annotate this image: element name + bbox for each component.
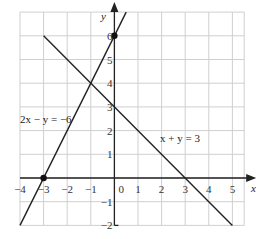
x-tick-label: 3 — [182, 183, 188, 195]
line1-label: 2x − y = −6 — [20, 113, 72, 125]
y-tick-label: 5 — [107, 54, 113, 66]
x-tick-label: 4 — [206, 183, 212, 195]
y-tick-label: 6 — [107, 30, 113, 42]
y-axis-label: y — [100, 10, 106, 22]
y-tick-label: 2 — [107, 125, 113, 137]
x-tick-label: −1 — [85, 183, 97, 195]
x-axis-label: x — [250, 182, 256, 194]
x-tick-label: −2 — [61, 183, 73, 195]
y-tick-label: 3 — [107, 101, 113, 113]
x-tick-label: 1 — [135, 183, 141, 195]
y-tick-label: 4 — [107, 77, 113, 89]
chart: −4−3−2−1012345−2−1123456 x y 2x − y = −6… — [0, 0, 272, 239]
y-tick-label: −1 — [101, 196, 113, 208]
y-tick-label: −2 — [101, 219, 113, 231]
line2-label: x + y = 3 — [160, 132, 200, 144]
x-tick-label: 2 — [159, 183, 165, 195]
x-tick-label: 5 — [230, 183, 236, 195]
x-tick-label: −3 — [38, 183, 50, 195]
y-axis-arrow-icon — [110, 2, 118, 12]
y-tick-label: 1 — [107, 148, 113, 160]
x-axis-arrow-icon — [246, 174, 256, 182]
x-tick-label: −4 — [14, 183, 26, 195]
x-tick-label: 0 — [118, 183, 124, 195]
data-point — [40, 175, 46, 181]
